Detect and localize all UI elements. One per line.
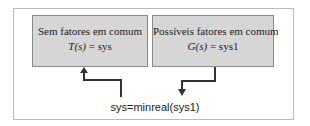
arrowhead-up-icon [80, 67, 88, 73]
arrowhead-down-icon [178, 89, 186, 96]
arrow-to-left-box [84, 72, 121, 97]
diagram-canvas: Sem fatores em comum T(s) = sys Possívei… [0, 0, 310, 126]
minreal-command: sys=minreal(sys1) [80, 101, 230, 113]
arrow-from-right-box [182, 67, 215, 90]
